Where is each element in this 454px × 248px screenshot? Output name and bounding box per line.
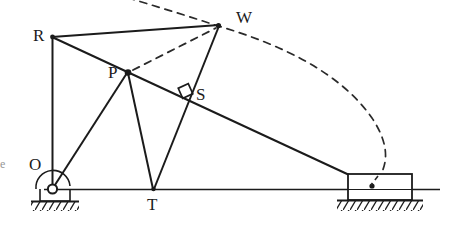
joint-node-T xyxy=(151,187,155,191)
ground-hatching-right xyxy=(337,201,423,212)
label-T: T xyxy=(147,196,157,213)
joint-node-W xyxy=(216,23,221,28)
label-P: P xyxy=(108,64,117,81)
link-O-P xyxy=(53,73,127,188)
joint-node-P xyxy=(125,69,132,76)
dashed-locus-arc xyxy=(78,0,386,186)
link-R-W xyxy=(52,25,219,37)
diagram-canvas xyxy=(0,0,454,248)
linkage-members xyxy=(52,25,373,189)
link-R-slider xyxy=(52,37,373,186)
pin-support-O xyxy=(31,184,79,211)
label-edge-mark: e xyxy=(0,158,5,170)
mechanism-diagram: R W P S O T e xyxy=(0,0,454,248)
label-O: O xyxy=(29,156,41,173)
label-S: S xyxy=(196,86,205,103)
label-W: W xyxy=(236,9,252,26)
joint-node-R xyxy=(50,35,55,40)
slider-block xyxy=(348,174,412,200)
label-R: R xyxy=(33,27,44,44)
link-W-T xyxy=(154,26,219,189)
link-P-T xyxy=(128,73,153,189)
